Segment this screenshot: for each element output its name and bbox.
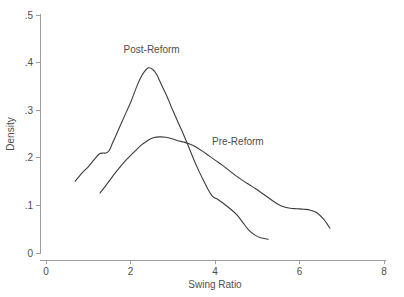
y-tick-label: .3 (25, 105, 34, 116)
x-tick-label: 4 (212, 266, 218, 277)
density-curve-post-reform (75, 68, 268, 240)
x-axis-title: Swing Ratio (188, 279, 242, 290)
y-tick-label: .1 (25, 200, 34, 211)
x-tick-label: 8 (381, 266, 387, 277)
series-label-post-reform: Post-Reform (124, 44, 180, 55)
x-axis-ticks: 02468 (43, 260, 387, 277)
y-axis-title: Density (5, 117, 16, 150)
x-tick-label: 0 (43, 266, 49, 277)
y-tick-label: 0 (27, 248, 33, 259)
y-tick-label: .4 (25, 57, 34, 68)
x-tick-label: 2 (128, 266, 134, 277)
y-axis-ticks: 0.1.2.3.4.5 (25, 10, 40, 259)
density-plot-figure: 0.1.2.3.4.5 02468 Post-ReformPre-Reform … (0, 0, 404, 297)
y-tick-label: .2 (25, 152, 34, 163)
density-curves (75, 68, 330, 240)
y-tick-label: .5 (25, 10, 34, 21)
series-label-pre-reform: Pre-Reform (212, 136, 264, 147)
chart-canvas: 0.1.2.3.4.5 02468 Post-ReformPre-Reform … (0, 0, 404, 297)
series-annotations: Post-ReformPre-Reform (124, 44, 264, 147)
x-tick-label: 6 (297, 266, 303, 277)
density-curve-pre-reform (100, 137, 330, 228)
